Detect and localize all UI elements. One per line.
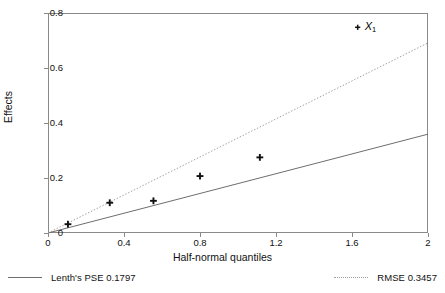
x-tick-label: 0.8 [193, 238, 206, 248]
y-tick-mark [44, 68, 48, 69]
fit-line-lenth [48, 134, 428, 233]
data-point [355, 25, 360, 30]
y-tick-label: 0.8 [50, 8, 63, 18]
data-point [256, 154, 263, 161]
y-tick-label: 0.2 [50, 173, 63, 183]
series-layer [48, 43, 428, 233]
y-tick-mark [44, 123, 48, 124]
y-axis-title: Effects [2, 91, 14, 123]
chart-legend: Lenth's PSE 0.1797 RMSE 0.3457 [0, 270, 445, 290]
plot-area [48, 13, 428, 233]
y-tick-label: 0.4 [50, 118, 63, 128]
dotted-line-swatch-icon [334, 277, 368, 278]
legend-item-label: RMSE 0.3457 [377, 272, 437, 283]
data-point [150, 197, 157, 204]
solid-line-swatch-icon [8, 277, 42, 278]
x-tick-label: 2 [425, 238, 430, 248]
y-tick-label: 0.6 [50, 63, 63, 73]
data-point [106, 199, 113, 206]
half-normal-plot: 00.40.81.21.62 00.20.40.60.8 X1 Half-nor… [0, 0, 445, 293]
y-tick-label: 0 [58, 228, 63, 238]
x-tick-label: 1.6 [345, 238, 358, 248]
legend-item-label: Lenth's PSE 0.1797 [51, 272, 136, 283]
legend-item-lenth-pse: Lenth's PSE 0.1797 [8, 272, 136, 283]
points-layer [65, 25, 361, 228]
y-tick-mark [44, 13, 48, 14]
x-axis-title: Half-normal quantiles [0, 251, 445, 263]
fit-line-rmse [48, 43, 428, 233]
x-tick-label: 1.2 [269, 238, 282, 248]
legend-item-rmse: RMSE 0.3457 [334, 272, 437, 283]
y-tick-mark [44, 178, 48, 179]
point-label-x1: X1 [365, 20, 377, 32]
x-tick-label: 0.4 [117, 238, 130, 248]
data-point [197, 173, 204, 180]
y-tick-mark [44, 233, 48, 234]
x-tick-label: 0 [45, 238, 50, 248]
data-point [65, 221, 72, 228]
